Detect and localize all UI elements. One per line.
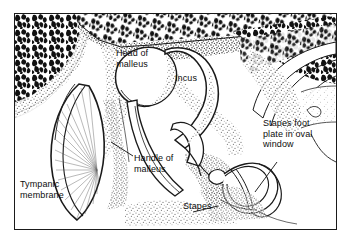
label-handle-of-malleus: Handle of malleus — [134, 153, 173, 174]
label-incus: Incus — [175, 73, 197, 84]
label-head-of-malleus: Head of malleus — [105, 48, 159, 69]
screenshot-root: Head of malleus Incus Stapes foot plate … — [0, 0, 348, 241]
label-stapes: Stapes — [183, 201, 212, 212]
anatomy-figure-frame: Head of malleus Incus Stapes foot plate … — [14, 13, 337, 230]
label-tympanic-membrane: Tympanic membrane — [20, 179, 64, 200]
label-stapes-footplate: Stapes foot plate in oval window — [263, 118, 312, 150]
